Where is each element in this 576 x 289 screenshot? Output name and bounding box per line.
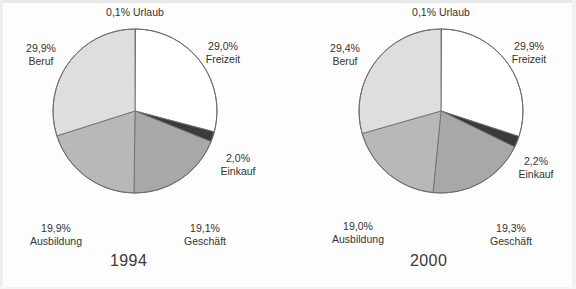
slice-label-beruf: 29,9% Beruf bbox=[4, 42, 78, 67]
slice-label-ausbildung-pct: 19,0% bbox=[308, 220, 408, 233]
chart-title-year: 1994 bbox=[110, 252, 147, 270]
slice-label-beruf-cat: Beruf bbox=[4, 55, 78, 68]
chart-title-year: 2000 bbox=[410, 252, 447, 270]
slice-label-freizeit-pct: 29,9% bbox=[486, 40, 572, 53]
pie-chart-1994: 0,1% Urlaub 29,0% Freizeit 29,9% Beruf 2… bbox=[0, 0, 288, 289]
slice-label-einkauf: 2,0% Einkauf bbox=[196, 152, 280, 177]
slice-label-beruf-pct: 29,4% bbox=[308, 42, 382, 55]
slice-label-einkauf-cat: Einkauf bbox=[496, 168, 576, 181]
slice-label-beruf: 29,4% Beruf bbox=[308, 42, 382, 67]
slice-label-beruf-cat: Beruf bbox=[308, 55, 382, 68]
slice-label-einkauf-pct: 2,2% bbox=[496, 155, 576, 168]
slice-label-einkauf-cat: Einkauf bbox=[196, 165, 280, 178]
slice-label-urlaub: 0,1% Urlaub bbox=[366, 6, 516, 19]
slice-label-geschaeft: 19,3% Geschäft bbox=[464, 222, 558, 247]
slice-label-urlaub: 0,1% Urlaub bbox=[60, 6, 210, 19]
pie-chart-2000: 0,1% Urlaub 29,9% Freizeit 29,4% Beruf 2… bbox=[288, 0, 576, 289]
slice-label-ausbildung: 19,0% Ausbildung bbox=[308, 220, 408, 245]
slice-label-freizeit-pct: 29,0% bbox=[180, 40, 266, 53]
slice-label-ausbildung-pct: 19,9% bbox=[6, 222, 106, 235]
slice-label-freizeit-cat: Freizeit bbox=[486, 53, 572, 66]
slice-label-einkauf-pct: 2,0% bbox=[196, 152, 280, 165]
slice-label-ausbildung: 19,9% Ausbildung bbox=[6, 222, 106, 247]
slice-label-freizeit: 29,0% Freizeit bbox=[180, 40, 266, 65]
slice-label-freizeit-cat: Freizeit bbox=[180, 53, 266, 66]
slice-label-geschaeft-pct: 19,1% bbox=[158, 222, 252, 235]
slice-label-geschaeft-cat: Geschäft bbox=[158, 235, 252, 248]
slice-label-ausbildung-cat: Ausbildung bbox=[6, 235, 106, 248]
slice-label-freizeit: 29,9% Freizeit bbox=[486, 40, 572, 65]
slice-label-geschaeft-pct: 19,3% bbox=[464, 222, 558, 235]
slice-label-urlaub-text: 0,1% Urlaub bbox=[60, 6, 210, 19]
slice-label-urlaub-text: 0,1% Urlaub bbox=[366, 6, 516, 19]
slice-label-ausbildung-cat: Ausbildung bbox=[308, 233, 408, 246]
slice-label-einkauf: 2,2% Einkauf bbox=[496, 155, 576, 180]
slice-label-geschaeft: 19,1% Geschäft bbox=[158, 222, 252, 247]
pie-chart-figure: 0,1% Urlaub 29,0% Freizeit 29,9% Beruf 2… bbox=[0, 0, 576, 289]
slice-label-geschaeft-cat: Geschäft bbox=[464, 235, 558, 248]
slice-label-beruf-pct: 29,9% bbox=[4, 42, 78, 55]
